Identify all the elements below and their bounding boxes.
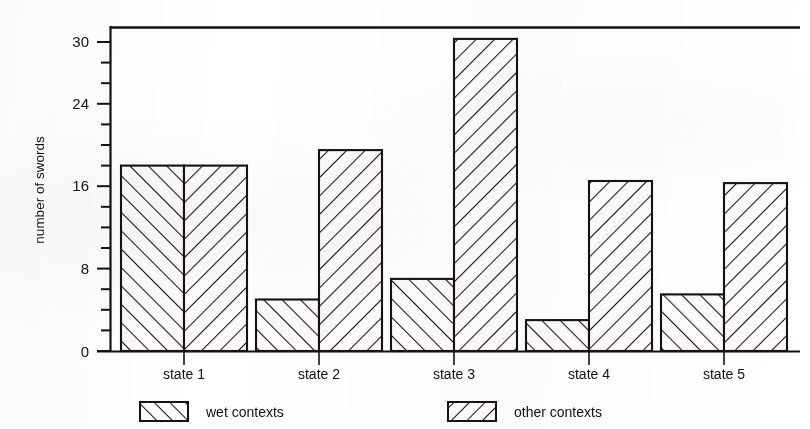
chart-canvas: 30 24 16 8 0 number of swords: [0, 0, 810, 429]
bar-other-state-4: [589, 181, 652, 351]
legend-item-wet-contexts: wet contexts: [140, 402, 284, 421]
category-label-state-1: state 1: [163, 366, 205, 382]
y-axis-tick-labels: 30 24 16 8 0: [72, 33, 89, 360]
x-axis-category-labels: state 1 state 2 state 3 state 4 state 5: [163, 366, 745, 382]
y-tick-label-8: 8: [81, 260, 89, 277]
hatch-back-slash-swatch: [448, 402, 496, 421]
bar-group-state-1: [121, 166, 247, 365]
bar-wet-state-4: [526, 320, 589, 351]
category-label-state-4: state 4: [568, 366, 610, 382]
legend-item-other-contexts: other contexts: [448, 402, 602, 421]
y-tick-label-24: 24: [72, 95, 89, 112]
bar-wet-state-5: [661, 294, 724, 351]
category-label-state-2: state 2: [298, 366, 340, 382]
y-tick-label-0: 0: [81, 343, 89, 360]
y-tick-label-30: 30: [72, 33, 89, 50]
bar-group-state-4: [526, 181, 652, 365]
bar-group-state-2: [256, 150, 382, 365]
y-axis-ticks: [97, 42, 111, 351]
bar-other-state-5: [724, 183, 787, 351]
y-tick-label-16: 16: [72, 177, 89, 194]
y-axis-title: number of swords: [32, 136, 47, 244]
bar-wet-state-1: [121, 166, 184, 351]
bar-wet-state-3: [391, 279, 454, 351]
legend-label-wet-contexts: wet contexts: [205, 404, 284, 420]
bar-wet-state-2: [256, 300, 319, 352]
category-label-state-3: state 3: [433, 366, 475, 382]
bar-other-state-3: [454, 39, 517, 351]
bar-group-state-3: [391, 39, 517, 365]
bar-chart: 30 24 16 8 0 number of swords: [0, 0, 810, 429]
category-label-state-5: state 5: [703, 366, 745, 382]
hatch-forward-slash-swatch: [140, 402, 188, 421]
bar-group-state-5: [661, 183, 787, 365]
legend-label-other-contexts: other contexts: [514, 404, 602, 420]
bar-other-state-2: [319, 150, 382, 351]
bar-other-state-1: [184, 166, 247, 351]
bars-layer: [121, 39, 787, 365]
legend: wet contexts other contexts: [140, 402, 602, 421]
